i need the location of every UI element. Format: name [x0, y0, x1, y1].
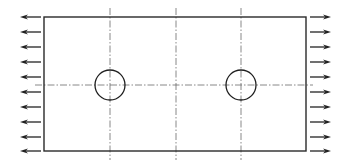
left-arrow-icon-6 [20, 89, 41, 94]
diagram-canvas [0, 0, 347, 165]
left-load-arrows [20, 14, 41, 153]
right-arrow-icon-8 [310, 119, 331, 124]
right-arrow-icon-9 [310, 134, 331, 139]
left-arrow-icon-8 [20, 119, 41, 124]
left-arrow-icon-2 [20, 29, 41, 34]
left-arrow-icon-4 [20, 59, 41, 64]
left-arrow-icon-3 [20, 44, 41, 49]
right-arrow-icon-2 [310, 29, 331, 34]
right-arrow-icon-6 [310, 89, 331, 94]
plate-with-holes-diagram [0, 0, 347, 165]
right-arrow-icon-1 [310, 14, 331, 19]
right-arrow-icon-4 [310, 59, 331, 64]
plate-outline [44, 17, 306, 151]
right-arrow-icon-10 [310, 148, 331, 153]
left-arrow-icon-5 [20, 74, 41, 79]
right-load-arrows [310, 14, 331, 153]
right-arrow-icon-3 [310, 44, 331, 49]
centerlines [35, 8, 313, 160]
left-arrow-icon-9 [20, 134, 41, 139]
right-arrow-icon-5 [310, 74, 331, 79]
left-arrow-icon-7 [20, 104, 41, 109]
left-arrow-icon-1 [20, 14, 41, 19]
left-arrow-icon-10 [20, 148, 41, 153]
right-arrow-icon-7 [310, 104, 331, 109]
